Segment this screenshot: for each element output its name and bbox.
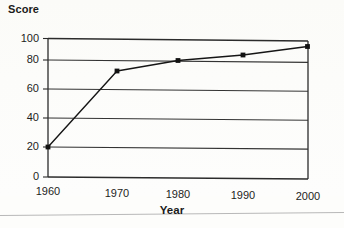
data-point-1970 (115, 69, 120, 74)
x-tick-label-1980: 1980 (155, 188, 201, 200)
y-tick-label-80: 80 (5, 53, 39, 65)
data-point-1980 (176, 58, 181, 63)
y-tick-label-20: 20 (5, 140, 39, 152)
y-tick-label-40: 40 (5, 111, 39, 123)
data-point-1960 (46, 145, 51, 150)
y-tick-label-0: 0 (5, 170, 39, 182)
x-axis-title: Year (0, 204, 344, 216)
x-tick-label-1960: 1960 (25, 185, 71, 197)
data-point-1990 (241, 53, 246, 58)
x-tick-label-1990: 1990 (220, 189, 266, 201)
y-tick-label-100: 100 (5, 32, 39, 44)
y-axis-tick-marks (43, 39, 48, 178)
y-tick-label-60: 60 (5, 82, 39, 94)
x-tick-label-1970: 1970 (94, 187, 140, 199)
x-tick-label-2000: 2000 (285, 190, 331, 202)
line-chart: Score Year 100 80 60 40 20 0 1960 1970 1… (0, 0, 344, 228)
data-point-2000 (305, 44, 310, 49)
y-axis-title: Score (8, 3, 39, 15)
